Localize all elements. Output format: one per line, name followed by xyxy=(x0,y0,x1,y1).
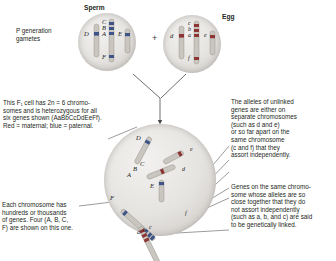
sperm-chromosomes xyxy=(78,13,136,71)
egg-label-f: f xyxy=(188,55,190,61)
f1-label-b: b xyxy=(143,227,146,233)
sperm-label-F: F xyxy=(102,53,106,60)
egg-label-a: a xyxy=(188,32,191,38)
f1-label-d: d xyxy=(182,166,185,172)
egg-cell: d c b a f e xyxy=(163,15,221,73)
sperm-title: Sperm xyxy=(84,4,105,11)
f1-label-E: E xyxy=(150,182,154,189)
sperm-label-D: D xyxy=(84,30,89,37)
f1-cell: D C B A F E e d c b a f xyxy=(104,124,216,236)
f1-label-c: c xyxy=(149,224,152,230)
p-generation-label: P generation gametes xyxy=(16,27,76,42)
f1-label-B: B xyxy=(133,165,137,172)
f1-label-C: C xyxy=(140,160,144,167)
egg-label-e: e xyxy=(204,32,207,38)
egg-label-d: d xyxy=(170,32,173,39)
egg-chromosomes xyxy=(163,15,221,73)
f1-label-A: A xyxy=(127,171,131,178)
chromosome-genes-callout: Each chromosome has hundreds or thousand… xyxy=(2,201,84,231)
sperm-cell: D C B A F E xyxy=(78,13,136,71)
f1-label-e: e xyxy=(190,146,193,152)
sperm-label-E: E xyxy=(118,30,122,37)
linked-genes-callout: Genes on the same chromo- some whose all… xyxy=(231,183,336,229)
f1-label-D: D xyxy=(136,134,141,141)
sperm-label-A: A xyxy=(102,30,106,37)
f1-label-a: a xyxy=(137,229,140,235)
unlinked-genes-callout: The alleles of unlinked genes are either… xyxy=(231,98,335,159)
f1-description-callout: This F₁ cell has 2n = 6 chromo- somes an… xyxy=(3,99,135,129)
egg-title: Egg xyxy=(222,13,234,20)
f1-chromosomes xyxy=(104,124,216,236)
plus-sign: + xyxy=(152,33,157,43)
figure-canvas: Sperm Egg P generation gametes + xyxy=(0,0,336,261)
f1-label-F: F xyxy=(110,194,114,201)
f1-label-f: f xyxy=(185,210,187,216)
